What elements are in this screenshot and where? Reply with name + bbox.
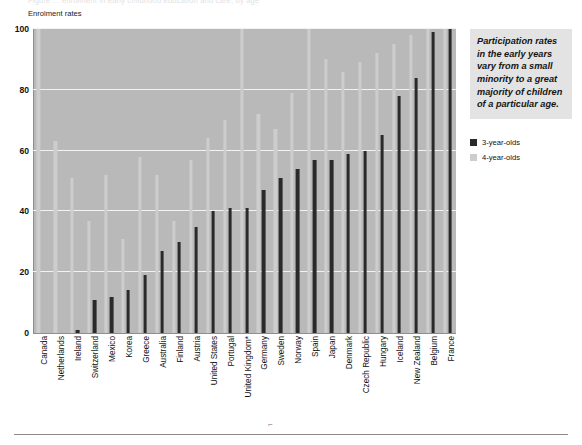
bar-slot [118, 29, 135, 333]
x-axis-label: Belgium [431, 336, 439, 366]
x-axis-label: Germany [261, 336, 269, 370]
x-label-slot: Greece [135, 336, 152, 432]
x-axis-label: Australia [160, 336, 168, 368]
x-axis-label: Ireland [75, 336, 83, 361]
x-label-slot: Belgium [422, 336, 439, 432]
y-tick-label-40: 40 [19, 206, 29, 216]
x-label-slot: Denmark [338, 336, 355, 432]
bar-slot [355, 29, 372, 333]
legend-swatch-4-year-olds [470, 154, 477, 161]
x-label-slot: Austria [185, 336, 202, 432]
y-axis-title: Enrolment rates [28, 9, 82, 18]
x-axis-label: Greece [143, 336, 151, 363]
footer-mark: ⌐ [268, 420, 273, 429]
figure-early-childhood-enrolment: Figure ... enrolment in early childhood … [0, 0, 582, 445]
x-label-slot: Canada [33, 336, 50, 432]
bar-slot [168, 29, 185, 333]
bar-4-year-olds [341, 72, 344, 333]
x-axis-label: Hungary [380, 336, 388, 367]
bar-3-year-olds [448, 29, 451, 333]
bar-slot [338, 29, 355, 333]
bar-3-year-olds [364, 151, 367, 333]
x-axis-label: Iceland [397, 336, 405, 362]
bar-slot [321, 29, 338, 333]
bar-4-year-olds [71, 178, 74, 333]
bar-slot [135, 29, 152, 333]
bar-4-year-olds [172, 221, 175, 333]
y-tick-label-20: 20 [19, 267, 29, 277]
x-axis-label: Finland [177, 336, 185, 363]
figure-top-caption: Figure ... enrolment in early childhood … [28, 0, 259, 5]
x-label-slot: Japan [321, 336, 338, 432]
x-label-slot: Mexico [101, 336, 118, 432]
bar-4-year-olds [189, 160, 192, 333]
bar-4-year-olds [308, 29, 311, 333]
x-axis-label: Japan [329, 336, 337, 358]
bar-3-year-olds [296, 169, 299, 333]
bar-slot [185, 29, 202, 333]
bar-4-year-olds [274, 129, 277, 333]
x-label-slot: United Kingdom* [236, 336, 253, 432]
x-label-slot: Iceland [388, 336, 405, 432]
bar-3-year-olds [144, 275, 147, 333]
bar-3-year-olds [262, 190, 265, 333]
x-axis-label: Switzerland [92, 336, 100, 378]
bar-3-year-olds [330, 160, 333, 333]
bar-4-year-olds [392, 44, 395, 333]
bar-slot [33, 29, 50, 333]
y-tick-label-100: 100 [15, 24, 29, 34]
bar-group [33, 29, 456, 333]
side-panel: Participation rates in the early years v… [470, 29, 572, 168]
legend-item-label: 3-year-olds [482, 138, 520, 147]
bar-3-year-olds [76, 330, 79, 333]
x-label-slot: Netherlands [50, 336, 67, 432]
x-axis-label: Denmark [346, 336, 354, 369]
bar-slot [219, 29, 236, 333]
bar-4-year-olds [223, 120, 226, 333]
legend-swatch-3-year-olds [470, 139, 477, 146]
bar-slot [371, 29, 388, 333]
bar-4-year-olds [426, 29, 429, 333]
bar-3-year-olds [245, 208, 248, 333]
bar-3-year-olds [228, 208, 231, 333]
x-axis-label: Mexico [109, 336, 117, 362]
x-label-slot: Korea [118, 336, 135, 432]
x-label-slot: Hungary [371, 336, 388, 432]
bar-3-year-olds [177, 242, 180, 333]
bar-3-year-olds [347, 154, 350, 333]
bar-4-year-olds [291, 93, 294, 333]
y-tick-label-0: 0 [24, 328, 29, 338]
x-axis-labels: CanadaNetherlandsIrelandSwitzerlandMexic… [33, 336, 456, 432]
bar-3-year-olds [380, 135, 383, 333]
x-label-slot: Switzerland [84, 336, 101, 432]
x-axis-label: Austria [194, 336, 202, 361]
bar-4-year-olds [325, 59, 328, 333]
side-panel-note: Participation rates in the early years v… [470, 29, 572, 119]
bar-4-year-olds [155, 175, 158, 333]
x-axis-label: Sweden [278, 336, 286, 366]
x-label-slot: Spain [304, 336, 321, 432]
x-axis-label: Spain [312, 336, 320, 357]
x-axis-label: Portugal [228, 336, 236, 367]
bar-3-year-olds [93, 300, 96, 333]
bar-3-year-olds [110, 297, 113, 333]
x-label-slot: New Zealand [405, 336, 422, 432]
y-tick-label-60: 60 [19, 146, 29, 156]
bar-4-year-olds [37, 29, 40, 333]
x-label-slot: Australia [151, 336, 168, 432]
bar-3-year-olds [397, 96, 400, 333]
x-label-slot: Germany [253, 336, 270, 432]
x-label-slot: United States [202, 336, 219, 432]
plot-area: 020406080100 [33, 29, 456, 333]
bar-3-year-olds [194, 227, 197, 333]
y-tick-label-80: 80 [19, 85, 29, 95]
bar-4-year-olds [54, 141, 57, 333]
bar-slot [388, 29, 405, 333]
bar-slot [405, 29, 422, 333]
bar-slot [287, 29, 304, 333]
legend-item: 4-year-olds [470, 153, 572, 162]
bar-4-year-olds [121, 239, 124, 333]
bar-4-year-olds [138, 157, 141, 333]
bar-4-year-olds [88, 221, 91, 333]
bar-slot [236, 29, 253, 333]
